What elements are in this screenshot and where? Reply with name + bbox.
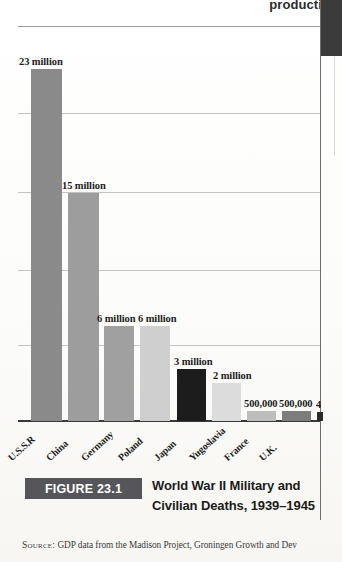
source-note: Source: GDP data from the Madison Projec… — [22, 539, 342, 550]
bar-value-label: 500,000 — [244, 398, 277, 409]
bar-poland: 6 million — [140, 326, 170, 421]
bar-value-label: 2 million — [213, 370, 251, 381]
bar-value-label: 500,000 — [279, 398, 312, 409]
chart-x-tick-labels: U.S.S.RChinaGermanyPolandJapanYugoslavia… — [0, 420, 342, 475]
bar-value-label: 6 million — [138, 313, 176, 324]
bar-rect — [140, 326, 170, 421]
x-tick-japan: Japan — [152, 438, 178, 463]
chart-bars: 23 million15 million6 million6 million3 … — [0, 0, 342, 421]
x-tick-u-k: U.K. — [257, 442, 279, 463]
bar-value-label: 3 million — [174, 356, 212, 367]
x-tick-france: France — [222, 436, 251, 463]
scanned-textbook-page: producti 23 million15 million6 million6 … — [0, 0, 342, 562]
bar-rect — [177, 369, 206, 421]
bar-rect — [104, 326, 134, 421]
bar-value-label: 23 million — [19, 56, 63, 67]
x-tick-u-s-s-r: U.S.S.R — [6, 434, 37, 463]
bar-rect — [31, 69, 62, 421]
bar-rect — [68, 193, 99, 421]
bar-china: 15 million — [68, 193, 99, 421]
x-tick-germany: Germany — [79, 429, 115, 463]
bar-germany: 6 million — [104, 326, 134, 421]
bar-value-label: 4 — [316, 399, 321, 410]
x-tick-poland: Poland — [116, 436, 145, 463]
bar-u-s-s-r: 23 million — [31, 69, 62, 421]
caption-line-1: World War II Military and — [152, 478, 300, 493]
x-tick-yugoslavia: Yugoslavia — [187, 425, 227, 463]
bar-value-label: 6 million — [97, 313, 135, 324]
bar-value-label: 15 million — [62, 180, 106, 191]
caption-line-2: Civilian Deaths, 1939–1945 — [152, 498, 315, 513]
bar-yugoslavia: 2 million — [212, 383, 241, 421]
figure-number-badge: FIGURE 23.1 — [25, 478, 142, 499]
bar-rect — [212, 383, 241, 421]
bar-japan: 3 million — [177, 369, 206, 421]
x-tick-china: China — [44, 438, 70, 463]
source-text: GDP data from the Madison Project, Groni… — [57, 540, 296, 550]
figure-caption-text: World War II Military and Civilian Death… — [152, 476, 338, 516]
bar-chart: 23 million15 million6 million6 million3 … — [0, 0, 342, 470]
source-label: Source: — [22, 539, 55, 550]
